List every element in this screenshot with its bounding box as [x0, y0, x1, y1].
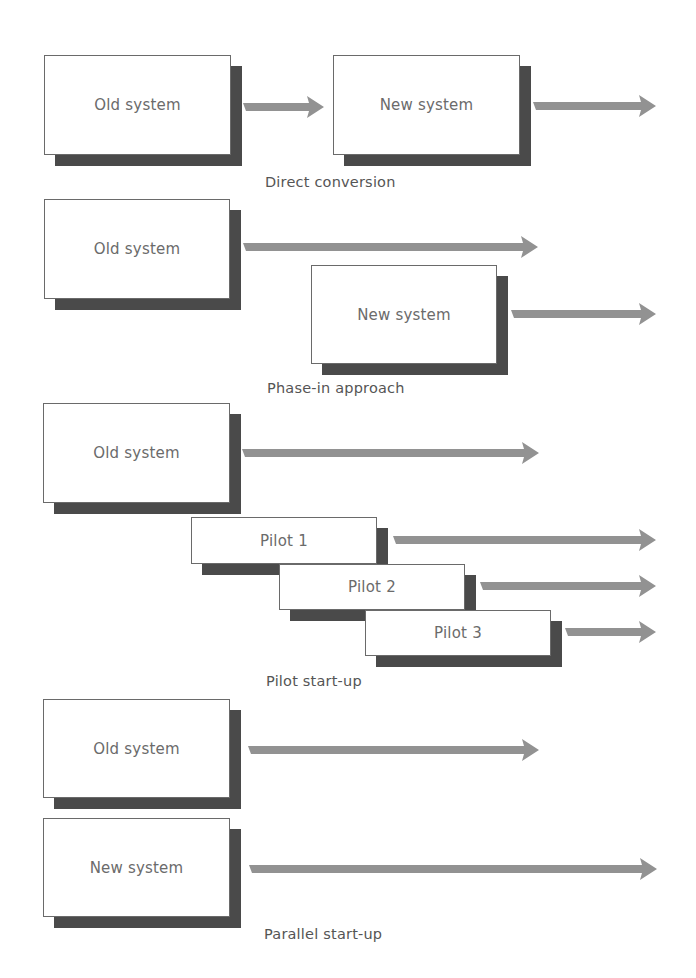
pilot-3-arrow-icon — [565, 621, 656, 643]
pilot-1-arrow-icon — [393, 529, 656, 551]
box-label: New system — [43, 818, 230, 917]
phase-in-approach-label: Phase-in approach — [267, 380, 405, 396]
pilot-2-arrow-icon — [480, 575, 656, 597]
direct-new-arrow-icon — [533, 95, 656, 117]
box-label: New system — [311, 265, 497, 364]
direct-conversion-label: Direct conversion — [265, 174, 396, 190]
parallel-old-arrow-icon — [248, 739, 539, 761]
phase-old-system-box: Old system — [44, 199, 241, 310]
parallel-new-arrow-icon — [249, 858, 657, 880]
box-label: Old system — [44, 55, 231, 155]
box-label: New system — [333, 55, 520, 155]
direct-old-system-box: Old system — [44, 55, 242, 166]
direct-old-arrow-icon — [243, 96, 324, 118]
pilot-old-system-box: Old system — [43, 403, 241, 514]
phase-new-system-box: New system — [311, 265, 508, 375]
box-label: Old system — [43, 699, 230, 798]
box-label: Old system — [44, 199, 230, 299]
pilot-old-arrow-icon — [242, 442, 539, 464]
box-label: Pilot 1 — [191, 517, 377, 564]
pilot-3-box: Pilot 3 — [365, 610, 562, 667]
parallel-new-system-box: New system — [43, 818, 241, 928]
direct-new-system-box: New system — [333, 55, 531, 166]
pilot-start-up-label: Pilot start-up — [266, 673, 362, 689]
box-label: Old system — [43, 403, 230, 503]
phase-new-arrow-icon — [511, 303, 656, 325]
parallel-old-system-box: Old system — [43, 699, 241, 809]
phase-old-arrow-icon — [243, 236, 538, 258]
box-label: Pilot 3 — [365, 610, 551, 656]
parallel-start-up-label: Parallel start-up — [264, 926, 382, 942]
box-label: Pilot 2 — [279, 564, 465, 610]
